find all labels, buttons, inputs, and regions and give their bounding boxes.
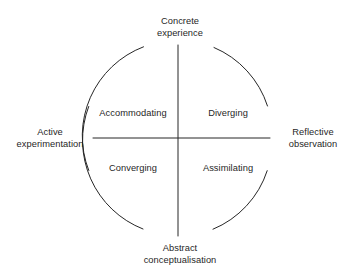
arc-upper-left bbox=[82, 47, 143, 171]
arc-lower-left bbox=[82, 107, 143, 230]
kolb-learning-cycle-diagram: Concrete experience Abstract conceptuali… bbox=[0, 0, 355, 279]
arc-upper-right bbox=[214, 48, 268, 107]
arc-lower-right bbox=[213, 171, 267, 230]
diagram-canvas bbox=[0, 0, 355, 279]
